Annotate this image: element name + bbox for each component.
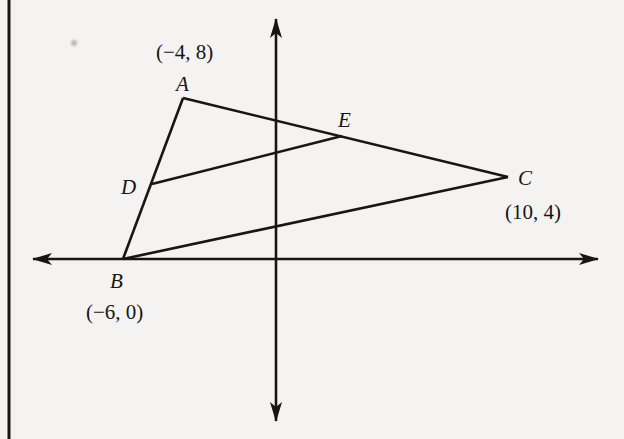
point-e-label: E <box>338 110 351 131</box>
segment-bc <box>123 177 508 259</box>
scan-speck <box>71 40 77 46</box>
point-c-label: C <box>518 168 532 189</box>
point-b-coordinates: (−6, 0) <box>86 302 143 323</box>
point-c-coordinates: (10, 4) <box>505 202 561 223</box>
triangle-abc <box>123 98 508 259</box>
point-a-label: A <box>176 74 189 95</box>
segment-de <box>152 136 342 184</box>
diagram-canvas: (−4, 8) A E D C (10, 4) B (−6, 0) <box>0 0 624 439</box>
point-d-label: D <box>121 177 136 198</box>
point-b-label: B <box>110 271 123 292</box>
point-a-coordinates: (−4, 8) <box>156 42 213 63</box>
